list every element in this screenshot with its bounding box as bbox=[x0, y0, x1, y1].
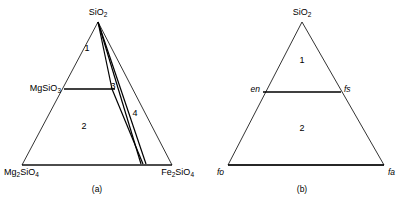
region-2: 2 bbox=[81, 121, 86, 131]
panel-caption: (a) bbox=[92, 184, 102, 194]
tie-line-right bbox=[98, 22, 146, 164]
svg-geometry-layer bbox=[22, 22, 384, 165]
diagram-canvas bbox=[0, 0, 397, 202]
mgsio3-label: MgSiO3 bbox=[30, 84, 61, 93]
region-4: 4 bbox=[132, 108, 137, 118]
region-3: 3 bbox=[110, 81, 115, 91]
ferrosilite-label: fs bbox=[344, 85, 351, 94]
triangle-right-edge bbox=[302, 22, 384, 165]
apex-label: SiO2 bbox=[89, 8, 108, 17]
triangle-left-edge bbox=[228, 22, 302, 165]
region-1: 1 bbox=[84, 43, 89, 53]
bottom-left-label: fo bbox=[217, 168, 224, 177]
figure-root: SiO2Mg2SiO4Fe2SiO4MgSiO31234(a)SiO2fofae… bbox=[0, 0, 397, 202]
apex-label: SiO2 bbox=[293, 8, 312, 17]
bottom-right-label: fa bbox=[388, 168, 395, 177]
bottom-left-label: Mg2SiO4 bbox=[4, 168, 39, 177]
region-1: 1 bbox=[299, 55, 304, 65]
bottom-right-label: Fe2SiO4 bbox=[161, 168, 194, 177]
region-2: 2 bbox=[299, 123, 304, 133]
enstatite-label: en bbox=[251, 85, 260, 94]
panel-caption: (b) bbox=[297, 184, 307, 194]
